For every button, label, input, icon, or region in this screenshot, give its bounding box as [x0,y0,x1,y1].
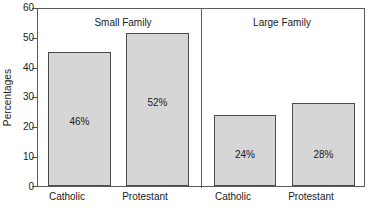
panel-title-small-family: Small Family [48,17,198,28]
x-label-large-family-protestant: Protestant [256,191,366,202]
bar-value-small-family-catholic: 46% [49,117,110,127]
y-tick-label-40: 40 [14,63,34,73]
bar-value-large-family-catholic: 24% [215,150,275,160]
y-tick-label-10: 10 [14,152,34,162]
y-tick-label-20: 20 [14,122,34,132]
y-tick-label-60: 60 [14,3,34,13]
bar-small-family-catholic: 46% [48,52,111,186]
panel-title-large-family: Large Family [206,17,358,28]
bar-chart: Percentages 60 50 40 30 20 10 0 Small Fa… [0,0,373,215]
bar-large-family-protestant: 28% [292,103,355,186]
y-tick-label-30: 30 [14,92,34,102]
bar-large-family-catholic: 24% [214,115,276,186]
y-tick-label-50: 50 [14,33,34,43]
plot-area: Small Family Large Family 46% 52% 24% 28… [37,8,365,187]
panel-divider [201,9,202,188]
bar-small-family-protestant: 52% [126,33,189,186]
bar-value-small-family-protestant: 52% [127,98,188,108]
bar-value-large-family-protestant: 28% [293,150,354,160]
y-axis-title-text: Percentages [3,69,14,126]
